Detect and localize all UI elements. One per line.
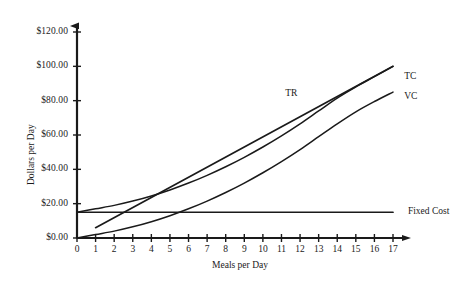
y-axis-tick-label: $120.00 bbox=[0, 26, 68, 36]
y-axis-title: Dollars per Day bbox=[26, 124, 36, 185]
chart-figure: $0.00$20.00$40.00$60.00$80.00$100.00$120… bbox=[0, 0, 452, 283]
y-axis-tick-label: $0.00 bbox=[0, 232, 68, 242]
x-axis bbox=[77, 234, 404, 242]
series-label-fixed-cost: Fixed Cost bbox=[408, 206, 449, 216]
series-line-vc bbox=[77, 92, 393, 238]
x-axis-title: Meals per Day bbox=[150, 260, 330, 270]
series-label-vc: VC bbox=[404, 91, 417, 101]
y-axis-tick-label: $100.00 bbox=[0, 60, 68, 70]
chart-series-group bbox=[77, 66, 393, 238]
series-line-tc bbox=[77, 66, 393, 212]
x-axis-tick-label: 17 bbox=[381, 244, 405, 254]
y-axis-tick-label: $20.00 bbox=[0, 198, 68, 208]
series-label-tr: TR bbox=[285, 88, 297, 98]
y-axis bbox=[73, 26, 81, 238]
series-label-tc: TC bbox=[404, 71, 416, 81]
y-axis-tick-label: $80.00 bbox=[0, 95, 68, 105]
